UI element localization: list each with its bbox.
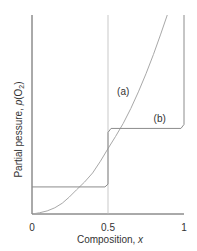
y-axis-label: Partial pessure, p(O2): [13, 81, 25, 177]
chart-svg: (a)(b) 00.51 Composition, x Partial pess…: [0, 0, 197, 251]
x-tick-label: 0.5: [101, 222, 115, 233]
y-axis-label-open: (O: [13, 88, 24, 99]
series-label-b: (b): [154, 113, 166, 124]
x-axis-label-text: Composition,: [77, 234, 138, 245]
x-axis-label: Composition, x: [77, 234, 144, 245]
series-line-a: [32, 15, 167, 214]
x-tick-label: 0: [29, 222, 35, 233]
series-label-a: (a): [117, 86, 129, 97]
x-tick-labels: 00.51: [29, 222, 187, 233]
y-axis-label-prefix: Partial pessure,: [13, 105, 24, 177]
x-tick-label: 1: [181, 222, 187, 233]
x-axis-label-var: x: [137, 234, 144, 245]
y-axis-label-close: ): [13, 81, 24, 84]
